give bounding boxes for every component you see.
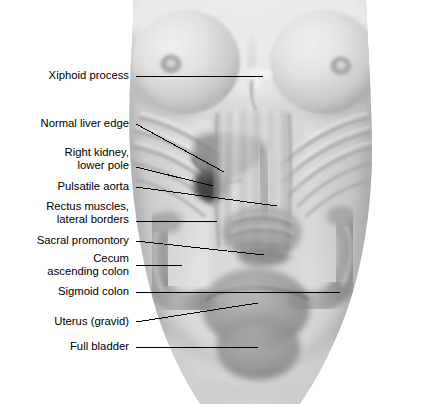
label-line: lateral borders: [46, 213, 129, 226]
label-line: ascending colon: [47, 265, 129, 278]
label-pulsatile-aorta[interactable]: Pulsatile aorta: [57, 180, 129, 193]
label-sigmoid-colon[interactable]: Sigmoid colon: [58, 285, 129, 298]
label-line: Sigmoid colon: [58, 285, 129, 298]
label-rectus-muscles-lateral-borders[interactable]: Rectus muscles,lateral borders: [46, 200, 129, 227]
label-uterus-gravid[interactable]: Uterus (gravid): [54, 315, 129, 328]
label-sacral-promontory[interactable]: Sacral promontory: [37, 234, 129, 247]
label-line: Normal liver edge: [40, 117, 129, 130]
label-line: Uterus (gravid): [54, 315, 129, 328]
label-line: Pulsatile aorta: [57, 180, 129, 193]
label-line: Cecum: [47, 252, 129, 265]
label-normal-liver-edge[interactable]: Normal liver edge: [40, 117, 129, 130]
label-line: Full bladder: [70, 340, 129, 353]
label-line: Right kidney,: [65, 146, 129, 159]
label-line: Xiphoid process: [49, 69, 129, 82]
label-line: Sacral promontory: [37, 234, 129, 247]
anatomical-figure: Xiphoid processNormal liver edgeRight ki…: [0, 0, 431, 404]
label-line: lower pole: [65, 159, 129, 172]
label-full-bladder[interactable]: Full bladder: [70, 340, 129, 353]
label-xiphoid-process[interactable]: Xiphoid process: [49, 69, 129, 82]
label-right-kidney-lower-pole[interactable]: Right kidney,lower pole: [65, 146, 129, 173]
label-line: Rectus muscles,: [46, 200, 129, 213]
label-cecum-ascending-colon[interactable]: Cecumascending colon: [47, 252, 129, 279]
